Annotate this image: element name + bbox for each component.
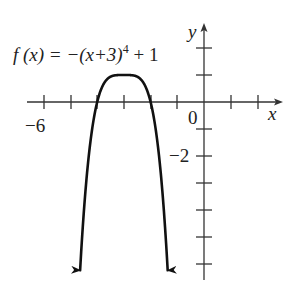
function-label: f (x) = −(x+3)4 + 1 — [13, 42, 158, 66]
x-axis — [27, 95, 283, 109]
x-tick-label-minus6: −6 — [25, 115, 45, 136]
y-axis-label: y — [186, 21, 197, 42]
y-axis — [196, 23, 212, 280]
y-tick-label-minus2: −2 — [169, 145, 189, 166]
x-axis-label: x — [267, 103, 277, 124]
function-graph: f (x) = −(x+3)4 + 1 y x −6 0 −2 — [0, 0, 283, 293]
origin-label: 0 — [188, 107, 198, 128]
